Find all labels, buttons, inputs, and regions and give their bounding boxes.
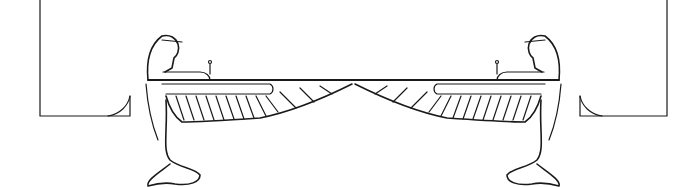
- winged-figures-illustration: [0, 0, 682, 187]
- left-bracket: [40, 0, 130, 116]
- left-winged-figure: [146, 35, 352, 186]
- right-bracket: [580, 0, 667, 116]
- right-winged-figure: [352, 35, 561, 186]
